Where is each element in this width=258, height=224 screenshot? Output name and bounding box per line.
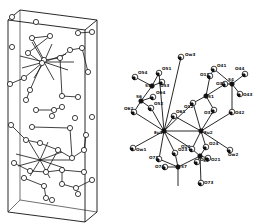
- packing-atom: [39, 60, 44, 65]
- packing-atom: [59, 181, 64, 186]
- atom-label: O32: [204, 110, 213, 115]
- packing-atom: [67, 125, 72, 130]
- bond: [159, 131, 164, 159]
- atom-label: S7: [181, 164, 187, 169]
- atom-label: O62: [124, 106, 133, 111]
- atom-shading: [211, 69, 214, 72]
- packing-bond: [11, 125, 26, 140]
- packing-atom: [75, 191, 80, 196]
- packing-atom: [23, 97, 28, 102]
- atom-label: O12: [184, 104, 193, 109]
- packing-atom: [47, 33, 52, 38]
- packing-bond: [62, 170, 84, 172]
- packing-bond: [32, 127, 70, 128]
- packing-bond: [60, 58, 62, 96]
- atom-label: O72: [200, 157, 209, 162]
- packing-atom: [67, 47, 72, 52]
- atom-label: Ow2: [228, 152, 238, 157]
- atom-shading: [150, 97, 153, 100]
- atom-label: O42: [235, 110, 244, 115]
- atom-shading: [171, 116, 174, 119]
- atom-shading: [132, 77, 135, 80]
- packing-atom: [43, 195, 48, 200]
- atom-label: O51: [162, 66, 171, 71]
- atom-label: Eu1: [154, 130, 163, 135]
- atom-label: O22: [181, 144, 190, 149]
- packing-atom: [29, 124, 34, 129]
- atom-shading: [131, 112, 134, 115]
- atom-shading: [229, 112, 232, 115]
- packing-atom: [89, 114, 94, 119]
- packing-atom: [81, 147, 86, 152]
- molecule-labels: Ow3O54O51S5O53S6O64O62O52Eu1Eu2O11O41O44…: [124, 52, 252, 185]
- atom-label: O52: [154, 101, 163, 106]
- packing-atom: [29, 35, 34, 40]
- unit-cell-edge: [8, 200, 20, 212]
- atom-label: Eu2: [204, 130, 213, 135]
- atom-shading: [130, 148, 133, 151]
- atom-shading: [172, 153, 175, 156]
- packing-atom: [59, 93, 64, 98]
- atom-label: S1: [208, 94, 214, 99]
- packing-atom: [83, 132, 88, 137]
- atom-s6: [139, 99, 143, 103]
- atom-label: O41: [217, 63, 226, 68]
- atom-shading: [194, 162, 197, 165]
- packing-atom: [81, 169, 86, 174]
- packing-atom: [57, 55, 62, 60]
- atom-s7: [176, 165, 180, 169]
- atom-eu2: [199, 129, 203, 133]
- atom-shading: [242, 74, 245, 77]
- packing-atom: [85, 69, 90, 74]
- atom-label: O74: [155, 164, 164, 169]
- packing-atom: [89, 177, 94, 182]
- packing-bond: [46, 150, 58, 172]
- packing-atom: [8, 122, 13, 127]
- packing-atom: [33, 107, 38, 112]
- unit-cell-edge: [8, 20, 85, 30]
- atom-label: S4: [228, 77, 234, 82]
- packing-atom: [21, 175, 26, 180]
- atom-shading: [189, 149, 192, 152]
- atom-label: O21: [211, 157, 220, 162]
- packing-atom: [11, 160, 16, 165]
- unit-cell-edge: [85, 20, 97, 30]
- bond: [134, 112, 164, 131]
- packing-atom: [9, 44, 14, 49]
- packing-bond: [30, 63, 42, 90]
- packing-atom: [41, 183, 46, 188]
- packing-bond: [16, 154, 40, 160]
- atom-label: Ow3: [185, 52, 195, 57]
- atom-shading: [237, 94, 240, 97]
- packing-atom: [33, 19, 38, 24]
- packing-atom: [59, 104, 64, 109]
- packing-atom: [25, 50, 30, 55]
- packing-atom: [72, 115, 77, 120]
- packing-bond: [70, 128, 72, 158]
- atom-s4: [230, 82, 234, 86]
- atom-label: O31: [216, 81, 225, 86]
- packing-atom: [27, 87, 32, 92]
- packing-atom: [49, 197, 54, 202]
- packing-atom: [73, 185, 78, 190]
- packing-atom: [75, 30, 80, 35]
- atom-label: O44: [235, 66, 244, 71]
- atom-shading: [198, 183, 201, 186]
- packing-atom: [55, 147, 60, 152]
- atom-label: O43: [243, 92, 252, 97]
- packing-atoms: [7, 14, 94, 202]
- atom-shading: [156, 73, 159, 76]
- atom-label: O11: [200, 72, 209, 77]
- packing-atom: [23, 137, 28, 142]
- figure: Ow3O54O51S5O53S6O64O62O52Eu1Eu2O11O41O44…: [0, 0, 258, 224]
- atom-label: O53: [160, 83, 169, 88]
- atom-label: O61: [176, 109, 185, 114]
- atom-label: Ow1: [136, 147, 146, 152]
- atom-label: S5: [145, 83, 151, 88]
- atom-label: O24: [209, 141, 218, 146]
- packing-atom: [51, 107, 56, 112]
- packing-atom: [49, 113, 54, 118]
- atom-label: O71: [149, 155, 158, 160]
- atom-label: S6: [136, 94, 142, 99]
- packing-atom: [79, 45, 84, 50]
